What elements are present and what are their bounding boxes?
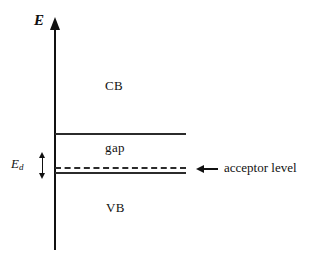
energy-axis-line: [54, 28, 56, 250]
acceptor-level-line: [55, 167, 186, 169]
acceptor-level-label: acceptor level: [224, 161, 297, 175]
ed-symbol: E: [11, 156, 19, 171]
valence-band-label: VB: [106, 201, 125, 215]
energy-axis-label: E: [34, 13, 44, 28]
ed-subscript: d: [19, 162, 24, 172]
acceptor-left-arrow-icon: [196, 165, 218, 173]
band-diagram-figure: E CB gap VB Ed acceptor level: [0, 0, 328, 262]
acceptor-arrow-shaft: [202, 168, 218, 170]
ed-double-headed-arrow-icon: [38, 152, 47, 179]
band-gap-label: gap: [105, 141, 125, 155]
ed-energy-label: Ed: [11, 157, 23, 174]
ed-arrow-head-down: [39, 173, 45, 179]
valence-band-edge-line: [55, 172, 186, 174]
conduction-band-label: CB: [105, 79, 123, 93]
conduction-band-edge-line: [55, 133, 186, 135]
